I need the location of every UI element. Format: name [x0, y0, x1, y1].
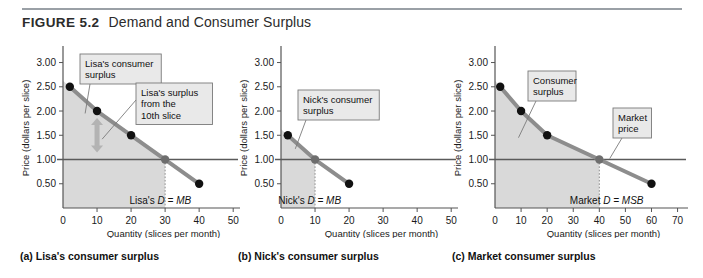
panel-b-nick-consumer-surplus: 0.501.001.502.002.503.0001020304050Quant… [236, 38, 468, 238]
curve-label: Lisa's D = MB [129, 195, 191, 206]
x-tick-label: 20 [126, 215, 138, 226]
y-tick-label: 1.00 [469, 154, 489, 165]
y-tick-label: 2.50 [37, 81, 57, 92]
x-tick-label: 40 [194, 215, 206, 226]
x-tick-label: 0 [278, 215, 284, 226]
x-tick-label: 10 [91, 215, 103, 226]
tenth-slice-surplus-callout-text: from the [141, 98, 176, 109]
x-tick-label: 50 [620, 215, 632, 226]
caption-panel-a: (a) Lisa's consumer surplus [20, 250, 159, 262]
consumer-surplus-callout-text: surplus [303, 105, 334, 116]
x-tick-label: 30 [160, 215, 172, 226]
consumer-surplus-callout-text: Lisa's consumer [85, 58, 153, 69]
data-point [311, 155, 319, 163]
tenth-slice-surplus-callout-text: 10th slice [141, 110, 181, 121]
chart-a: 0.501.001.502.002.503.0001020304050Quant… [18, 38, 250, 238]
figure-number: FIGURE 5.2 [22, 15, 100, 30]
x-tick-label: 30 [568, 215, 580, 226]
y-tick-label: 1.00 [255, 154, 275, 165]
panel-c-market-consumer-surplus: 0.501.001.502.002.503.00010203040506070Q… [450, 38, 700, 238]
figure-title: FIGURE 5.2Demand and Consumer Surplus [22, 14, 311, 30]
data-point [195, 180, 203, 188]
x-tick-label: 40 [412, 215, 424, 226]
x-tick-label: 20 [344, 215, 356, 226]
data-point [161, 155, 169, 163]
caption-panel-b: (b) Nick's consumer surplus [238, 250, 379, 262]
y-tick-label: 0.50 [469, 178, 489, 189]
x-tick-label: 30 [378, 215, 390, 226]
x-tick-label: 60 [646, 215, 658, 226]
data-point [496, 83, 504, 91]
panel-a-lisa-consumer-surplus: 0.501.001.502.002.503.0001020304050Quant… [18, 38, 250, 238]
y-tick-label: 1.00 [37, 154, 57, 165]
y-tick-label: 2.00 [37, 106, 57, 117]
x-tick-label: 10 [309, 215, 321, 226]
title-divider [22, 8, 682, 10]
data-point [284, 131, 292, 139]
y-axis-title: Price (dollars per slice) [452, 80, 463, 177]
consumer-surplus-callout-text: Nick's consumer [303, 94, 372, 105]
curve-label: Market D = MSB [570, 195, 644, 206]
figure-root: FIGURE 5.2Demand and Consumer Surplus 0.… [0, 0, 703, 278]
x-tick-label: 40 [594, 215, 606, 226]
caption-panel-c: (c) Market consumer surplus [452, 250, 596, 262]
x-axis-title: Quantity (slices per month) [547, 228, 661, 238]
y-tick-label: 3.00 [469, 57, 489, 68]
y-tick-label: 1.50 [469, 130, 489, 141]
data-point [517, 107, 525, 115]
y-axis-title: Price (dollars per slice) [238, 80, 249, 177]
consumer-surplus-callout-text: surplus [533, 86, 564, 97]
y-tick-label: 0.50 [37, 178, 57, 189]
market-price-callout-text: price [618, 123, 639, 134]
market-price-callout-text: Market [618, 112, 647, 123]
consumer-surplus-callout-text: Consumer [533, 75, 577, 86]
data-point [93, 107, 101, 115]
chart-b: 0.501.001.502.002.503.0001020304050Quant… [236, 38, 468, 238]
y-tick-label: 2.50 [255, 81, 275, 92]
y-tick-label: 2.50 [469, 81, 489, 92]
y-tick-label: 1.50 [37, 130, 57, 141]
data-point [647, 180, 655, 188]
data-point [543, 131, 551, 139]
x-tick-label: 20 [542, 215, 554, 226]
x-tick-label: 0 [492, 215, 498, 226]
consumer-surplus-callout-text: surplus [85, 69, 116, 80]
y-tick-label: 3.00 [255, 57, 275, 68]
data-point [66, 83, 74, 91]
x-tick-label: 10 [516, 215, 528, 226]
y-axis-title: Price (dollars per slice) [20, 80, 31, 177]
y-tick-label: 2.00 [255, 106, 275, 117]
x-axis-title: Quantity (slices per month) [107, 228, 221, 238]
y-tick-label: 2.00 [469, 106, 489, 117]
y-tick-label: 3.00 [37, 57, 57, 68]
tenth-slice-surplus-callout-text: Lisa's surplus [141, 87, 199, 98]
chart-c: 0.501.001.502.002.503.00010203040506070Q… [450, 38, 700, 238]
x-tick-label: 0 [60, 215, 66, 226]
x-tick-label: 70 [672, 215, 684, 226]
figure-title-text: Demand and Consumer Surplus [109, 14, 312, 30]
curve-label: Nick's D = MB [278, 195, 341, 206]
data-point [595, 155, 603, 163]
y-tick-label: 1.50 [255, 130, 275, 141]
data-point [127, 131, 135, 139]
data-point [345, 180, 353, 188]
market-price-leader-line [610, 138, 622, 159]
x-axis-title: Quantity (slices per month) [325, 228, 439, 238]
y-tick-label: 0.50 [255, 178, 275, 189]
